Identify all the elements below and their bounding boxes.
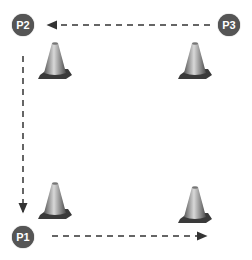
arrows-layer: [0, 0, 252, 260]
point-p2-badge: P2: [12, 14, 34, 36]
point-p1-badge: P1: [12, 226, 34, 248]
cone-icon: [38, 42, 72, 79]
cone-icon: [38, 182, 72, 219]
cone-icon: [178, 186, 212, 223]
cone-icon: [178, 42, 212, 79]
cone-drill-diagram: P2 P3 P1: [0, 0, 252, 260]
point-p3-badge: P3: [218, 14, 240, 36]
